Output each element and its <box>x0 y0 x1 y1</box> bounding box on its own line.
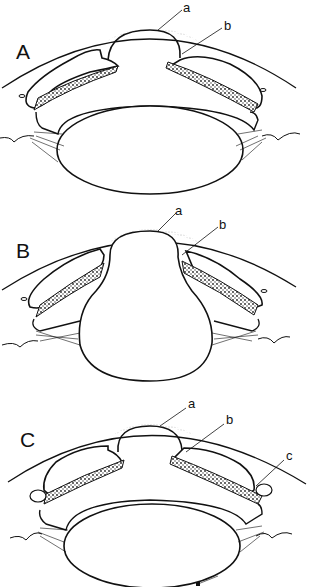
callout-label-a: a <box>188 396 195 411</box>
callout-label-c: c <box>286 448 293 463</box>
callout-label-b: b <box>226 412 233 427</box>
callout-label-b: b <box>219 217 226 232</box>
panel-b: B a b <box>0 195 314 390</box>
callout-label-b: b <box>224 18 231 33</box>
eye-section-diagram-b <box>0 195 314 390</box>
panel-a: A a b <box>0 0 314 195</box>
panel-label-a: A <box>16 40 30 64</box>
callout-label-a: a <box>175 203 182 218</box>
panel-c: C a b c <box>0 390 314 587</box>
callout-label-a: a <box>183 0 190 15</box>
eye-section-diagram-a <box>0 0 314 195</box>
panel-label-c: C <box>20 428 35 452</box>
eye-section-diagram-c <box>0 390 314 587</box>
panel-label-b: B <box>16 239 30 263</box>
